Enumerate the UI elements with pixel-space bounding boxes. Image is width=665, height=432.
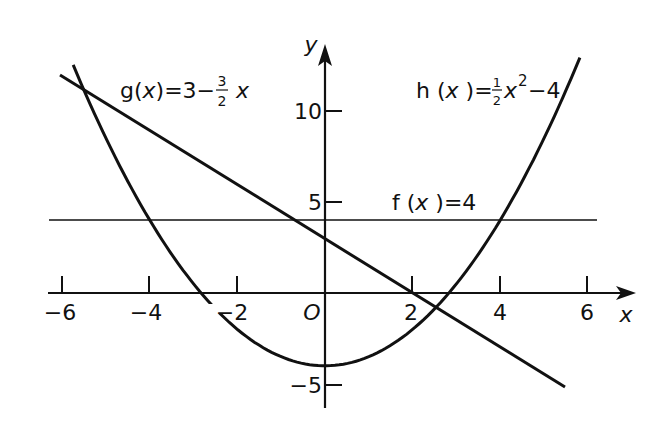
tick-label: −2	[216, 300, 248, 325]
x-axis-label: x	[618, 302, 633, 327]
y-axis-label: y	[303, 32, 318, 57]
tick-label: 4	[493, 300, 507, 325]
fraction-denominator: 2	[493, 93, 501, 108]
tick-label: −6	[44, 300, 76, 325]
tick-label: 6	[580, 300, 594, 325]
annotation-h: h (x )= 1 2 x 2 −4	[416, 72, 560, 108]
svg-text:x: x	[503, 78, 518, 103]
tick-label: −5	[290, 373, 322, 398]
svg-text:h (x )=: h (x )=	[416, 78, 493, 103]
tick-label: 5	[308, 190, 322, 215]
tick-label: 10	[294, 99, 322, 124]
svg-text:2: 2	[518, 72, 528, 90]
tick-label: 2	[404, 300, 418, 325]
svg-text:x: x	[235, 78, 250, 103]
function-graph: −6 −4 −2 2 4 6 O x y 10 5 −5 g(x)=3− 3 2…	[0, 0, 665, 432]
y-tick-labels: 10 5 −5	[290, 99, 322, 398]
origin-label: O	[303, 300, 320, 325]
fraction-numerator: 1	[493, 75, 501, 90]
annotation-g: g(x)=3− 3 2 x	[120, 73, 250, 109]
svg-text:g(x)=3−: g(x)=3−	[120, 78, 215, 103]
annotation-f: f (x )=4	[392, 190, 476, 215]
fraction-denominator: 2	[218, 93, 227, 109]
svg-text:−4: −4	[528, 78, 560, 103]
fraction-numerator: 3	[218, 73, 227, 89]
tick-label: −4	[130, 300, 162, 325]
